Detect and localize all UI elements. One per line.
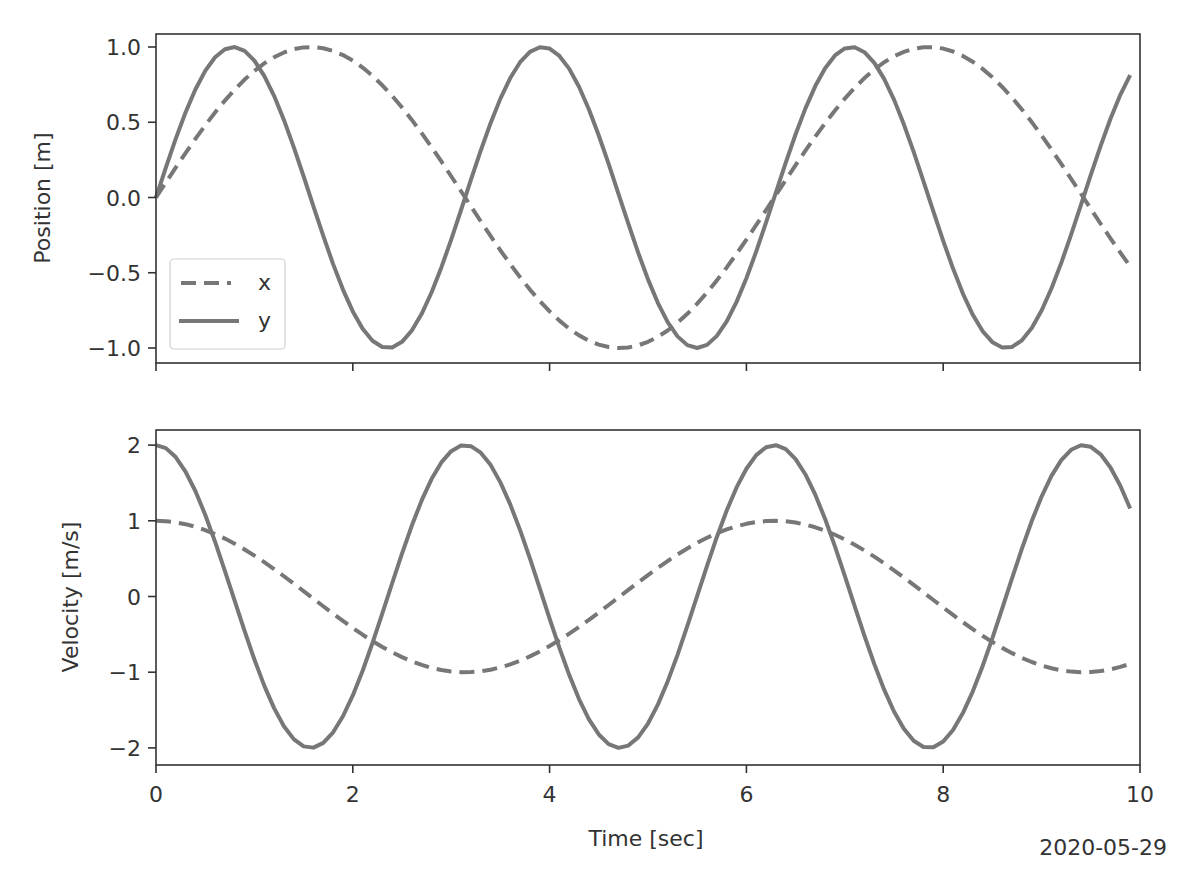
x-tick-label: 4 (543, 782, 557, 807)
y-tick-label: −1.0 (88, 336, 141, 361)
x-axis-label: Time [sec] (587, 826, 703, 851)
velocity-plot-lines (156, 445, 1130, 748)
velocity-axes: 210−1−2 0246810 Velocity [m/s] Time [sec… (58, 430, 1154, 851)
series-x-line (156, 47, 1130, 348)
legend: x y (170, 259, 285, 349)
figure: 1.00.50.0−0.5−1.0 Position [m] x y 210−1… (0, 0, 1201, 886)
velocity-y-axis-label: Velocity [m/s] (58, 522, 83, 673)
x-tick-label: 6 (739, 782, 753, 807)
y-tick-label: 0 (127, 585, 141, 610)
date-stamp: 2020-05-29 (1039, 835, 1167, 860)
velocity-x-ticks: 0246810 (149, 765, 1154, 807)
position-axes: 1.00.50.0−0.5−1.0 Position [m] x y (30, 34, 1140, 371)
position-plot-lines (156, 47, 1130, 348)
series-x-line (156, 521, 1130, 672)
series-y-line (156, 445, 1130, 748)
x-tick-label: 8 (936, 782, 950, 807)
position-y-ticks: 1.00.50.0−0.5−1.0 (88, 35, 156, 361)
position-axes-frame (156, 34, 1140, 363)
x-tick-label: 2 (346, 782, 360, 807)
y-tick-label: 1 (127, 509, 141, 534)
y-tick-label: 0.5 (106, 110, 141, 135)
legend-label-x: x (258, 270, 271, 295)
y-tick-label: −1 (109, 660, 141, 685)
x-tick-label: 10 (1126, 782, 1154, 807)
velocity-axes-frame (156, 430, 1140, 765)
y-tick-label: 2 (127, 433, 141, 458)
series-y-line (156, 47, 1130, 348)
x-tick-label: 0 (149, 782, 163, 807)
y-tick-label: −2 (109, 736, 141, 761)
y-tick-label: 0.0 (106, 186, 141, 211)
position-y-axis-label: Position [m] (30, 132, 55, 263)
position-x-ticks (156, 363, 1140, 371)
y-tick-label: −0.5 (88, 261, 141, 286)
velocity-y-ticks: 210−1−2 (109, 433, 156, 761)
legend-label-y: y (258, 308, 271, 333)
y-tick-label: 1.0 (106, 35, 141, 60)
